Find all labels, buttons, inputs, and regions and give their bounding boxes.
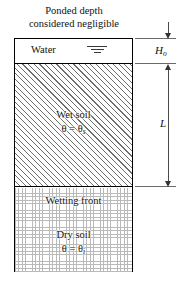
dimension-annotations: Ho L <box>133 0 186 281</box>
dry-soil-theta-equation: θ = θi <box>15 242 132 258</box>
ponded-depth-symbol: H <box>155 44 163 56</box>
wet-soil-theta-equation: θ = θs <box>15 122 132 138</box>
figure-caption: Ponded depth considered negligible <box>0 4 148 30</box>
water-layer: Water <box>15 39 132 64</box>
dry-theta-subscript: i <box>83 247 85 256</box>
dry-soil-label: Dry soil <box>15 228 132 241</box>
figure-root: Ponded depth considered negligible Water… <box>0 0 186 281</box>
soil-profile-column: Water Wet soil θ = θs Wetting front Dry … <box>14 38 133 272</box>
wet-soil-label: Wet soil <box>15 108 132 121</box>
dry-theta-equals: = <box>67 243 78 254</box>
wet-soil-layer: Wet soil θ = θs <box>15 64 132 187</box>
dry-soil-layer: Wetting front Dry soil θ = θi <box>15 188 132 272</box>
dimension-line-wetting-depth <box>168 68 169 182</box>
wet-theta-equals: = <box>66 123 77 134</box>
arrow-down-icon-wetting-base <box>165 181 171 187</box>
wetting-depth-symbol: L <box>160 117 166 129</box>
ponded-depth-label: Ho <box>155 44 167 58</box>
water-layer-label: Water <box>31 44 56 55</box>
ponded-depth-subscript: o <box>163 49 167 58</box>
arrow-down-icon-ponded <box>165 33 171 39</box>
caption-line-1: Ponded depth <box>0 4 148 17</box>
arrow-up-icon-wetting-top <box>165 64 171 70</box>
water-table-icon <box>87 46 107 57</box>
wetting-depth-label: L <box>160 117 166 129</box>
caption-line-2: considered negligible <box>0 17 148 30</box>
wet-theta-subscript: s <box>83 127 86 136</box>
wetting-front-label: Wetting front <box>15 194 132 207</box>
